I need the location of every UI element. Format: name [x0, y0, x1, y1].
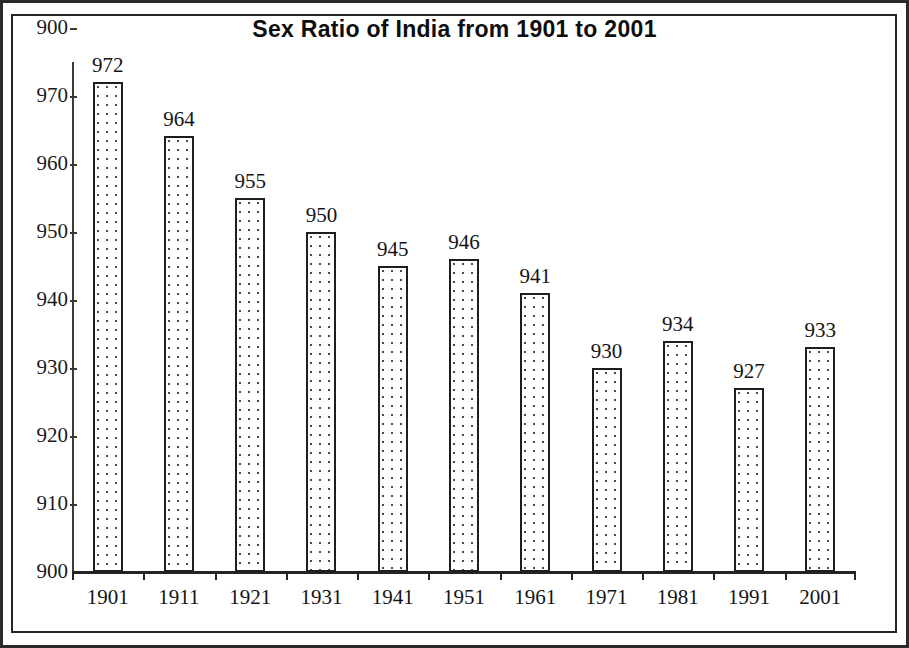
bar	[235, 198, 265, 572]
x-axis-tick	[642, 571, 644, 580]
x-axis-tick	[713, 571, 715, 580]
x-axis-label: 1981	[638, 586, 718, 608]
x-axis-label: 1951	[424, 586, 504, 608]
y-axis-label: 920	[10, 425, 68, 446]
bar	[449, 259, 479, 572]
y-axis-tick	[70, 300, 77, 302]
x-axis-tick	[785, 571, 787, 580]
x-axis-label: 1991	[709, 586, 789, 608]
bar-value-label: 972	[73, 55, 143, 76]
y-axis-tick	[70, 96, 77, 98]
chart-page: Sex Ratio of India from 1901 to 2001 900…	[0, 0, 909, 648]
x-axis-tick	[286, 571, 288, 580]
bar	[734, 388, 764, 572]
bar-value-label: 933	[785, 320, 855, 341]
y-axis-tick	[70, 504, 77, 506]
bar-value-label: 946	[429, 232, 499, 253]
bar	[378, 266, 408, 572]
x-axis-tick	[357, 571, 359, 580]
bar	[93, 82, 123, 572]
y-axis-label: 910	[10, 493, 68, 514]
bar	[592, 368, 622, 572]
x-axis-label: 1961	[495, 586, 575, 608]
x-axis-tick	[428, 571, 430, 580]
x-axis-label: 1931	[281, 586, 361, 608]
y-axis-label: 900	[10, 17, 68, 38]
bar	[805, 347, 835, 572]
x-axis-label: 2001	[780, 586, 860, 608]
y-axis-label: 960	[10, 153, 68, 174]
bar	[306, 232, 336, 572]
bar-value-label: 964	[144, 109, 214, 130]
bar-value-label: 941	[500, 266, 570, 287]
y-axis-label: 970	[10, 85, 68, 106]
x-axis-label: 1971	[567, 586, 647, 608]
bar-value-label: 950	[286, 205, 356, 226]
x-axis-label: 1901	[68, 586, 148, 608]
bar	[520, 293, 550, 572]
bar-value-label: 934	[643, 314, 713, 335]
bar-value-label: 945	[358, 239, 428, 260]
y-axis-tick	[70, 232, 77, 234]
chart-title: Sex Ratio of India from 1901 to 2001	[0, 16, 909, 43]
y-axis-tick	[70, 164, 77, 166]
x-axis-tick	[72, 571, 74, 580]
y-axis-tick	[70, 436, 77, 438]
bar	[663, 341, 693, 572]
x-axis-tick	[143, 571, 145, 580]
x-axis-tick	[571, 571, 573, 580]
y-axis-tick	[70, 368, 77, 370]
x-axis-label: 1921	[210, 586, 290, 608]
x-axis-label: 1941	[353, 586, 433, 608]
bar	[164, 136, 194, 572]
x-axis-tick	[500, 571, 502, 580]
x-axis-tick	[215, 571, 217, 580]
y-axis-label: 950	[10, 221, 68, 242]
x-axis-tick	[854, 571, 856, 580]
y-axis-label: 900	[10, 561, 68, 582]
bar-value-label: 927	[714, 361, 784, 382]
y-axis-label: 930	[10, 357, 68, 378]
y-axis: 900970960950940930920910900	[0, 0, 68, 648]
bar-value-label: 930	[572, 341, 642, 362]
x-axis-label: 1911	[139, 586, 219, 608]
bar-value-label: 955	[215, 171, 285, 192]
y-axis-line	[72, 62, 74, 573]
y-axis-tick	[70, 28, 77, 30]
y-axis-label: 940	[10, 289, 68, 310]
